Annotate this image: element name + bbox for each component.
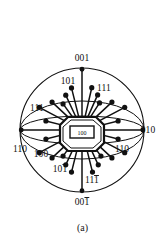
- pole-dot: [109, 155, 114, 160]
- pole-dot: [43, 118, 48, 123]
- pole-dot: [63, 93, 68, 98]
- pole-dot: [60, 153, 65, 158]
- label-101-upper-left: 101: [61, 76, 76, 86]
- pole-dot: [97, 100, 102, 105]
- label-100-lower-left: 100: [34, 149, 49, 159]
- pole-dot: [122, 105, 127, 110]
- pole-dot: [80, 67, 85, 72]
- stereographic-projection-figure: 100 001 010 110 110 101 111 111 100 101 …: [0, 0, 165, 248]
- pole-dot: [69, 170, 74, 175]
- pole-dot: [116, 118, 121, 123]
- label-001-top: 001: [75, 53, 90, 63]
- pole-dot: [90, 170, 95, 175]
- pole-dot: [60, 101, 65, 106]
- label-001bar-bottom: 001: [75, 197, 90, 207]
- figure-caption: (a): [0, 222, 165, 233]
- pole-dot: [96, 162, 101, 167]
- label-001bar-barred-digit: 1: [84, 197, 89, 207]
- label-101bar-stem: 10: [53, 164, 63, 174]
- pole-dot: [109, 99, 114, 104]
- label-101bar-barred-digit: 1: [62, 164, 67, 174]
- pole-dot: [89, 85, 94, 90]
- pole-dot: [98, 153, 103, 158]
- label-111bar-lower: 111: [85, 175, 99, 185]
- pole-dot: [49, 99, 54, 104]
- label-101bar-lower-left: 101: [53, 164, 68, 174]
- center-pole-label: 100: [78, 130, 87, 136]
- label-111-upper-right: 111: [97, 83, 111, 93]
- figure-root: 100 001 010 110 110 101 111 111 100 101 …: [0, 0, 165, 248]
- label-010-right: 010: [141, 125, 156, 135]
- label-110-right: 110: [115, 144, 129, 154]
- label-111bar-barred-digit: 1: [94, 175, 99, 185]
- label-111-left: 111: [30, 103, 44, 113]
- pole-dot: [69, 85, 74, 90]
- pole-dot: [49, 155, 54, 160]
- pole-dot: [95, 92, 100, 97]
- center-octagon-cell: 100: [60, 117, 104, 151]
- pole-dot: [19, 128, 24, 133]
- pole-dot: [43, 136, 48, 141]
- label-001bar-stem: 00: [75, 197, 85, 207]
- label-110-left: 110: [13, 144, 27, 154]
- pole-dot: [116, 136, 121, 141]
- pole-dot: [80, 188, 85, 193]
